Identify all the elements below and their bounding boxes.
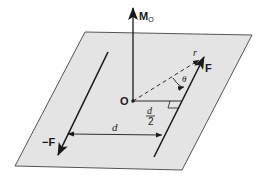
r-label: r [193,47,197,58]
force-label: F [205,62,212,74]
origin-label: O [120,95,129,107]
couple-moment-diagram: MO O F −F r θ d 2 d [0,0,266,183]
origin-point [131,99,135,103]
theta-label: θ [182,74,187,84]
distance-label: d [112,121,118,133]
half-distance-denominator: 2 [148,116,154,127]
neg-force-label: −F [42,136,55,148]
diagram-svg: MO O F −F r θ d 2 d [0,0,266,183]
moment-label: MO [139,10,154,23]
